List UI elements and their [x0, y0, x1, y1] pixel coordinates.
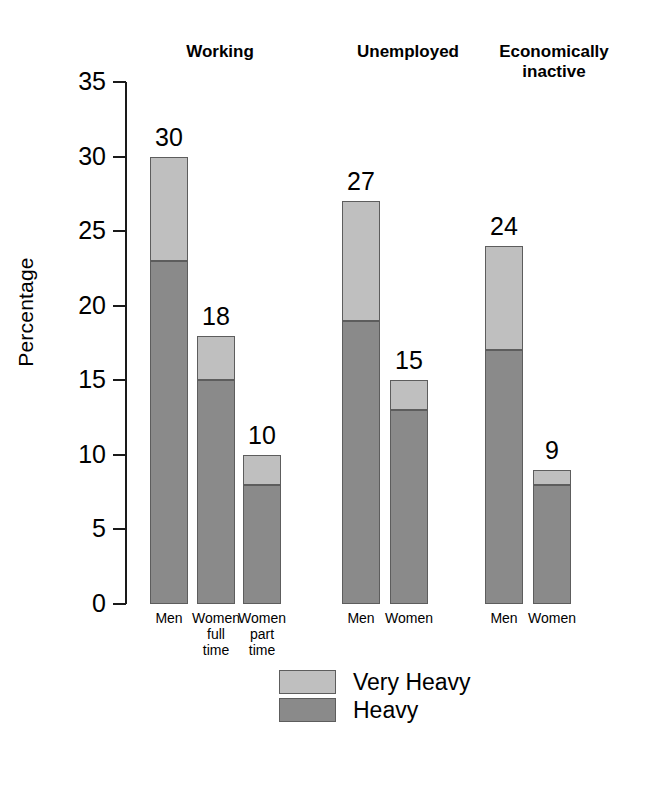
bar-3[interactable] — [342, 201, 380, 604]
y-tick-10 — [113, 454, 126, 456]
bar-value-3: 27 — [328, 169, 394, 194]
bar-3-segment-very-heavy — [342, 201, 380, 320]
legend-swatch-1 — [279, 698, 336, 722]
bar-1-segment-heavy — [197, 380, 235, 604]
y-tick-20 — [113, 305, 126, 307]
y-tick-label-0: 0 — [40, 591, 106, 616]
y-tick-5 — [113, 528, 126, 530]
bar-value-1: 18 — [183, 304, 249, 329]
bar-category-label-4: Women — [377, 610, 441, 626]
bar-4-segment-very-heavy — [390, 380, 428, 410]
bar-6-segment-heavy — [533, 485, 571, 604]
bar-category-label-6: Women — [520, 610, 584, 626]
y-tick-25 — [113, 230, 126, 232]
legend-label-1: Heavy — [353, 697, 418, 724]
bar-0[interactable] — [150, 157, 188, 604]
y-tick-label-25: 25 — [40, 218, 106, 243]
legend-item-1[interactable]: Heavy — [279, 696, 471, 724]
y-axis-title: Percentage — [14, 257, 37, 366]
group-header-2: Economically inactive — [474, 42, 634, 81]
y-axis-line — [125, 82, 127, 604]
y-axis-title-wrap: Percentage — [14, 212, 38, 412]
bar-2[interactable] — [243, 455, 281, 604]
chart-figure: WorkingUnemployedEconomically inactive 3… — [0, 0, 650, 785]
bar-0-segment-very-heavy — [150, 157, 188, 261]
y-tick-0 — [113, 603, 126, 605]
bar-4[interactable] — [390, 380, 428, 604]
bar-value-6: 9 — [519, 438, 585, 463]
bar-5-segment-heavy — [485, 350, 523, 604]
bar-value-5: 24 — [471, 214, 537, 239]
bar-1-segment-very-heavy — [197, 336, 235, 381]
y-tick-label-20: 20 — [40, 293, 106, 318]
y-tick-label-5: 5 — [40, 516, 106, 541]
bar-4-segment-heavy — [390, 410, 428, 604]
bar-value-2: 10 — [229, 423, 295, 448]
y-tick-label-30: 30 — [40, 144, 106, 169]
bar-6[interactable] — [533, 470, 571, 604]
y-tick-label-15: 15 — [40, 367, 106, 392]
bar-category-label-2: Women part time — [230, 610, 294, 658]
y-tick-15 — [113, 379, 126, 381]
bar-2-segment-very-heavy — [243, 455, 281, 485]
group-header-1: Unemployed — [333, 42, 483, 62]
bar-value-4: 15 — [376, 348, 442, 373]
legend-label-0: Very Heavy — [353, 669, 471, 696]
bar-5-segment-very-heavy — [485, 246, 523, 350]
bar-1[interactable] — [197, 336, 235, 604]
legend-swatch-0 — [279, 670, 336, 694]
y-tick-30 — [113, 156, 126, 158]
y-tick-35 — [113, 81, 126, 83]
group-header-0: Working — [150, 42, 290, 62]
bar-2-segment-heavy — [243, 485, 281, 604]
bar-3-segment-heavy — [342, 321, 380, 604]
y-tick-label-35: 35 — [40, 69, 106, 94]
chart-legend: Very HeavyHeavy — [279, 668, 471, 724]
legend-item-0[interactable]: Very Heavy — [279, 668, 471, 696]
y-tick-label-10: 10 — [40, 442, 106, 467]
bar-5[interactable] — [485, 246, 523, 604]
bar-value-0: 30 — [136, 125, 202, 150]
bar-6-segment-very-heavy — [533, 470, 571, 485]
